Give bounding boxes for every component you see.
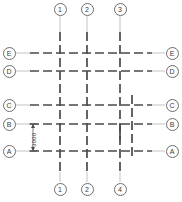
row-grid-axes	[30, 53, 152, 151]
grid-bubble-left-c[interactable]: C	[3, 99, 16, 112]
bubble-leader-lines	[16, 16, 165, 182]
grid-bubble-top-3[interactable]: 3	[114, 3, 127, 16]
grid-bubble-left-d[interactable]: D	[3, 65, 16, 78]
grid-bubble-right-e[interactable]: E	[166, 47, 179, 60]
grid-bubble-right-d[interactable]: D	[166, 65, 179, 78]
grid-bubble-bottom-4[interactable]: 4	[114, 183, 127, 196]
grid-bubble-left-e[interactable]: E	[3, 47, 16, 60]
grid-drawing-svg	[0, 0, 182, 202]
grid-bubble-left-b[interactable]: B	[3, 118, 16, 131]
grid-bubble-left-a[interactable]: A	[3, 145, 16, 158]
grid-bubble-bottom-1[interactable]: 1	[54, 183, 67, 196]
grid-bubble-top-2[interactable]: 2	[81, 3, 94, 16]
grid-bubble-top-1[interactable]: 1	[54, 3, 67, 16]
grid-bubble-right-b[interactable]: B	[166, 118, 179, 131]
grid-bubble-right-c[interactable]: C	[166, 99, 179, 112]
dimension-value-3000: 3000	[31, 132, 37, 147]
drawing-canvas: 123124EDCBAEDCBA 3000	[0, 0, 182, 202]
grid-bubble-right-a[interactable]: A	[166, 145, 179, 158]
grid-bubble-bottom-2[interactable]: 2	[81, 183, 94, 196]
